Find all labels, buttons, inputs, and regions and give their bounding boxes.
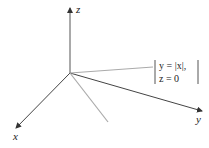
curve-branch-positive <box>70 67 153 73</box>
z-axis-label: z <box>76 4 80 15</box>
x-axis-label: x <box>13 131 18 142</box>
equation-line-1: y = |x|, <box>159 61 186 71</box>
y-axis-label: y <box>196 114 201 125</box>
equation-line-2: z = 0 <box>159 74 179 84</box>
coordinate-diagram: z x y y = |x|, z = 0 <box>0 0 209 148</box>
equation-box: y = |x|, z = 0 <box>154 59 198 85</box>
curve-branch-negative <box>70 73 108 122</box>
x-axis <box>16 73 70 128</box>
